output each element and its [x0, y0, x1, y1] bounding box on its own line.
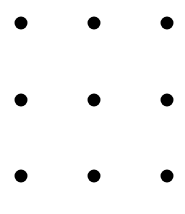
- dot-marker-bottom-left: [15, 170, 28, 183]
- dot-marker-middle-left: [15, 94, 28, 107]
- dot-marker-middle-right: [161, 94, 174, 107]
- dot-marker-middle-center: [88, 94, 101, 107]
- dot-marker-top-right: [161, 17, 174, 30]
- dot-grid-canvas: [0, 0, 185, 214]
- dot-marker-top-center: [88, 17, 101, 30]
- dot-marker-bottom-right: [161, 170, 174, 183]
- dot-marker-bottom-center: [88, 170, 101, 183]
- dot-marker-top-left: [15, 17, 28, 30]
